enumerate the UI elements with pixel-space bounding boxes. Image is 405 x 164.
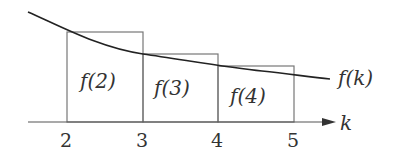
label-f3: f(3): [152, 76, 190, 100]
label-f4: f(4): [228, 84, 266, 108]
tick-4: 4: [211, 129, 223, 151]
sum-integral-diagram: f(2) f(3) f(4) f(k) k 2 3 4 5: [0, 0, 405, 164]
curve-f-of-k: [28, 12, 330, 79]
axis-label-k: k: [340, 111, 352, 135]
tick-5: 5: [287, 129, 299, 151]
axis-arrow-icon: [322, 118, 336, 126]
curve-label: f(k): [336, 66, 373, 90]
tick-3: 3: [136, 129, 148, 151]
tick-2: 2: [60, 129, 72, 151]
label-f2: f(2): [78, 69, 116, 93]
